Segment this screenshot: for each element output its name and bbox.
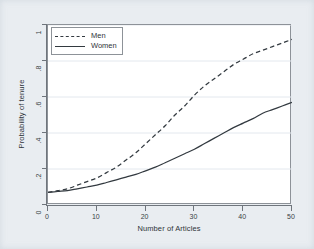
y-axis-line — [46, 24, 47, 205]
chart-legend: MenWomen — [51, 27, 123, 55]
x-axis-line — [46, 205, 292, 206]
x-tick-label: 10 — [86, 213, 106, 221]
x-tick-mark — [145, 206, 146, 211]
x-tick-label: 30 — [183, 213, 203, 221]
x-tick-mark — [242, 206, 243, 211]
x-tick-label: 0 — [37, 213, 57, 221]
legend-line-swatch — [55, 42, 85, 50]
x-tick-label: 50 — [281, 213, 301, 221]
series-line-women — [48, 102, 292, 192]
y-tick-label: .6 — [35, 96, 42, 112]
legend-item-women: Women — [55, 41, 117, 51]
y-tick-mark — [42, 60, 47, 61]
y-tick-mark — [42, 96, 47, 97]
y-axis-title: Probability of tenure — [16, 24, 27, 204]
legend-line-swatch — [55, 32, 85, 40]
y-tick-mark — [42, 132, 47, 133]
x-axis-title: Number of Articles — [47, 224, 291, 233]
y-tick-label: .2 — [35, 168, 42, 184]
legend-label: Men — [91, 31, 106, 41]
y-tick-mark — [42, 24, 47, 25]
y-tick-label: 1 — [35, 24, 42, 40]
x-tick-label: 40 — [232, 213, 252, 221]
legend-label: Women — [91, 41, 117, 51]
y-tick-mark — [42, 168, 47, 169]
y-tick-label: .8 — [35, 60, 42, 76]
x-tick-label: 20 — [135, 213, 155, 221]
x-tick-mark — [193, 206, 194, 211]
x-tick-mark — [96, 206, 97, 211]
y-tick-label: .4 — [35, 132, 42, 148]
x-tick-mark — [291, 206, 292, 211]
figure-canvas: 0.2.4.6.81 Probability of tenure 0102030… — [0, 0, 314, 249]
legend-item-men: Men — [55, 31, 117, 41]
x-tick-mark — [47, 206, 48, 211]
